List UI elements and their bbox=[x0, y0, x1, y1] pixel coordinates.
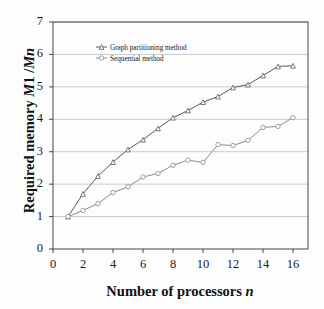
legend-item-2: Sequential method bbox=[96, 55, 164, 63]
legend-label-2: Sequential method bbox=[110, 55, 164, 63]
x-axis-tickmarks bbox=[53, 249, 293, 253]
legend-item-1: Graph partitioning method bbox=[96, 44, 187, 52]
chart-figure: Required memory M1 /Mn Number of process… bbox=[0, 0, 324, 309]
series-2 bbox=[66, 115, 295, 218]
plot-canvas: Graph partitioning methodSequential meth… bbox=[0, 0, 324, 309]
chart-legend: Graph partitioning methodSequential meth… bbox=[96, 44, 187, 63]
y-axis-tickmarks bbox=[49, 22, 53, 249]
legend-label-1: Graph partitioning method bbox=[110, 44, 187, 52]
plot-frame bbox=[53, 22, 308, 249]
